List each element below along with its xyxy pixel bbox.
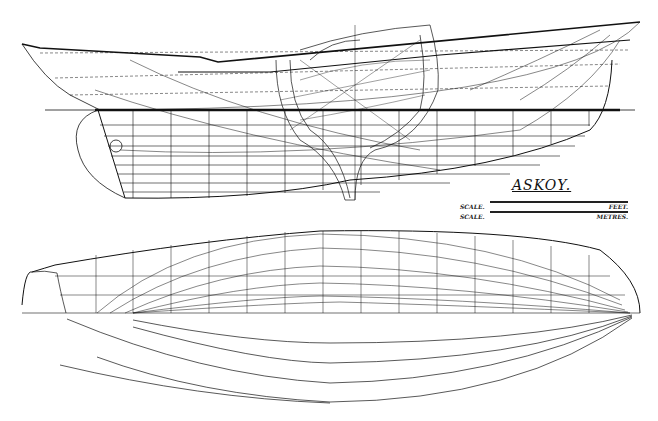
- scale-label: SCALE.: [460, 213, 485, 220]
- scale-unit-metres: METRES.: [597, 213, 628, 220]
- scale-bar-feet: [490, 201, 628, 203]
- scale-label: SCALE.: [460, 203, 485, 210]
- scale-metres: SCALE. METRES.: [460, 213, 628, 223]
- vessel-name-title: ASKOY.: [512, 177, 571, 193]
- sheer-plan: [22, 22, 640, 198]
- half-breadth-plan: [22, 231, 640, 403]
- scale-unit-feet: FEET.: [609, 203, 628, 210]
